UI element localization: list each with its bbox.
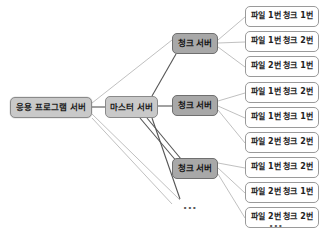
edge-app-server-to-ellipsis-1b xyxy=(92,118,172,204)
node-file-chunk-2[interactable]: 파일 1번 청크 2번 xyxy=(245,31,319,52)
node-chunk-server-1-label: 청크 서버 xyxy=(178,39,213,48)
node-application-server[interactable]: 응용 프로그램 서버 xyxy=(10,97,92,118)
node-file-chunk-1-label: 파일 1번 청크 1번 xyxy=(251,12,313,20)
node-file-chunk-8-label: 파일 2번 청크 1번 xyxy=(251,188,313,196)
edge-chunk-server-1-to-file-2 xyxy=(218,42,245,43)
edge-chunk-server-3-to-file-7 xyxy=(218,163,245,168)
node-file-chunk-4[interactable]: 파일 1번 청크 2번 xyxy=(245,82,319,103)
node-file-chunk-7-label: 파일 1번 청크 2번 xyxy=(251,163,313,171)
node-master-server[interactable]: 마스터 서버 xyxy=(105,96,158,118)
edge-app-server-to-chunk-server-1 xyxy=(92,40,172,103)
node-chunk-server-1[interactable]: 청크 서버 xyxy=(172,33,218,54)
node-file-chunk-5[interactable]: 파일 1번 청크 1번 xyxy=(245,107,319,128)
edge-master-server-to-chunk-server-1 xyxy=(152,54,176,96)
node-file-chunk-6[interactable]: 파일 2번 청크 2번 xyxy=(245,132,319,153)
node-chunk-server-2[interactable]: 청크 서버 xyxy=(172,95,218,116)
node-chunk-server-2-label: 청크 서버 xyxy=(178,101,213,110)
node-file-chunk-8[interactable]: 파일 2번 청크 1번 xyxy=(245,182,319,203)
node-file-chunk-4-label: 파일 1번 청크 2번 xyxy=(251,88,313,96)
edge-chunk-server-1-to-file-1 xyxy=(218,17,245,40)
edge-chunk-server-2-to-file-6 xyxy=(218,110,245,143)
node-file-chunk-3-label: 파일 2번 청크 1번 xyxy=(251,62,313,70)
node-application-server-label: 응용 프로그램 서버 xyxy=(16,103,86,112)
node-file-chunk-6-label: 파일 2번 청크 2번 xyxy=(251,138,313,146)
node-file-chunk-2-label: 파일 1번 청크 2번 xyxy=(251,37,313,45)
node-master-server-label: 마스터 서버 xyxy=(110,103,153,112)
node-file-chunk-7[interactable]: 파일 1번 청크 2번 xyxy=(245,157,319,178)
edge-chunk-server-2-to-file-4 xyxy=(218,93,245,101)
edge-app-server-to-ellipsis-1 xyxy=(92,114,180,200)
edge-master-server-to-chunk-server-3 xyxy=(140,118,178,163)
node-chunk-server-3[interactable]: 청크 서버 xyxy=(172,158,218,179)
ellipsis-marker-2: ... xyxy=(269,218,283,229)
node-chunk-server-3-label: 청크 서버 xyxy=(178,164,213,173)
node-file-chunk-5-label: 파일 1번 청크 1번 xyxy=(251,113,313,121)
edge-chunk-server-1-to-file-3 xyxy=(218,47,245,67)
architecture-diagram: 응용 프로그램 서버 마스터 서버 청크 서버청크 서버청크 서버 파일 1번 … xyxy=(0,0,324,236)
node-file-chunk-3[interactable]: 파일 2번 청크 1번 xyxy=(245,56,319,77)
edge-chunk-server-2-to-file-5 xyxy=(218,106,245,118)
ellipsis-marker-1: ... xyxy=(183,200,197,211)
node-file-chunk-1[interactable]: 파일 1번 청크 1번 xyxy=(245,6,319,27)
